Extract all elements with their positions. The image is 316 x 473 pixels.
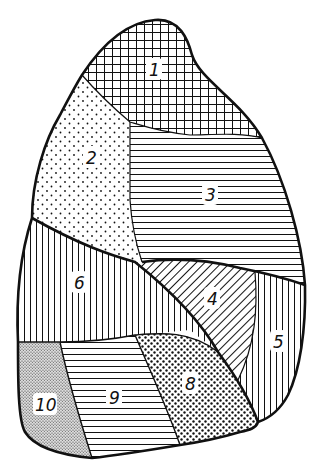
segment-3-label: 3	[205, 185, 216, 205]
segment-4-label: 4	[207, 289, 218, 309]
segment-2-label: 2	[86, 148, 97, 168]
segment-1-label: 1	[149, 60, 160, 80]
segment-6-label: 6	[74, 273, 85, 293]
lung-segment-diagram: 1 2 3 4 5 6 8 9 10	[0, 0, 316, 473]
segment-5-label: 5	[273, 332, 284, 352]
segment-10-label: 10	[35, 395, 57, 415]
segment-9-label: 9	[109, 388, 120, 408]
segment-8-label: 8	[185, 374, 196, 394]
